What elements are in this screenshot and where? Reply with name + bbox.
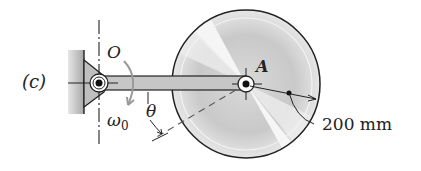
disk-center-a-label: A xyxy=(254,57,268,76)
arm-oa xyxy=(103,76,246,90)
omega-symbol: ω xyxy=(107,110,121,130)
omega-label: ω0 xyxy=(107,110,129,133)
pivot-o-label: O xyxy=(107,42,121,62)
theta-arc-arrow xyxy=(150,120,162,134)
part-label: (c) xyxy=(22,71,46,92)
angle-theta-label: θ xyxy=(146,101,156,121)
mechanism-diagram: (c) O A θ ω0 200 mm xyxy=(0,0,421,171)
omega-subscript: 0 xyxy=(121,119,129,133)
radius-label: 200 mm xyxy=(322,114,392,134)
